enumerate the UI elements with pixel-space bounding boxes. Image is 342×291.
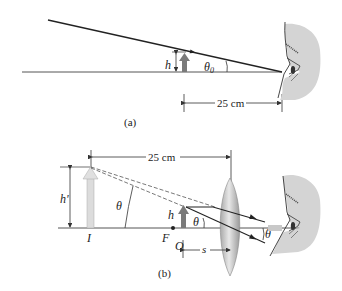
- angle-label-a: θ0: [204, 60, 214, 75]
- eye-face-icon-a: [278, 22, 320, 100]
- virtual-ray-lower: [91, 168, 185, 207]
- focal-point-label: F: [161, 231, 170, 245]
- angle-arc-a: [226, 61, 227, 72]
- focal-point: [171, 226, 175, 230]
- angle-arc-lens: [203, 218, 204, 228]
- virtual-ray-upper: [91, 167, 215, 207]
- angle-label-left: θ: [116, 199, 122, 213]
- figure-a: h θ0 25 cm (a): [22, 20, 320, 129]
- distance-label-b: 25 cm: [148, 151, 176, 163]
- height-label-a: h: [165, 58, 171, 72]
- eye-face-icon-b: [268, 175, 320, 256]
- object-arrow-b: [178, 205, 189, 228]
- object-arrow-a: [179, 53, 190, 72]
- caption-b: (b): [158, 267, 171, 280]
- image-label: I: [86, 231, 92, 245]
- object-height-label-b: h: [168, 208, 174, 222]
- magnifier-diagram: h θ0 25 cm (a) 25 cm h': [0, 0, 342, 291]
- object-distance-label: s: [202, 243, 206, 255]
- caption-a: (a): [124, 116, 137, 129]
- angle-arc-left: [125, 186, 133, 228]
- ray-arrow-icon: [190, 49, 197, 54]
- ray-arrow-icon-lower: [249, 234, 257, 241]
- distance-label-a: 25 cm: [217, 97, 245, 109]
- angle-arc-eye: [263, 228, 264, 240]
- angle-label-lens: θ: [193, 215, 199, 229]
- image-height-label: h': [60, 192, 69, 206]
- figure-b: 25 cm h' I θ F O h: [58, 150, 320, 280]
- image-arrow: [83, 167, 98, 228]
